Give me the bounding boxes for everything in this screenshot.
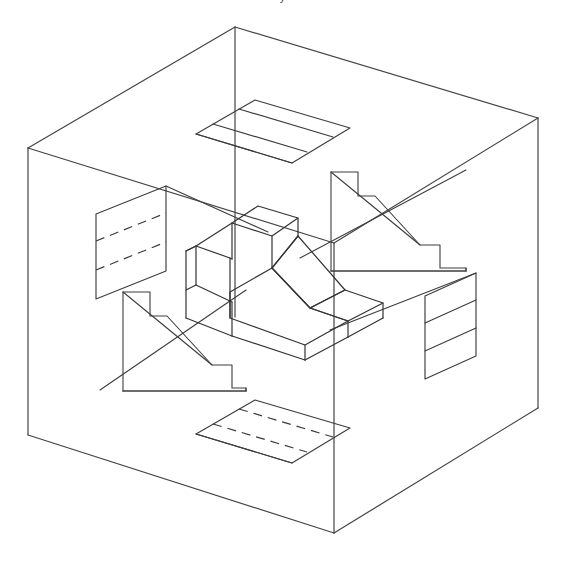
- projector-ray-lower-diagonal-a: [100, 290, 246, 390]
- left-plane-outline: [96, 186, 166, 299]
- top-plane-internal-line-1: [213, 124, 307, 152]
- object-base-top-face: [230, 268, 348, 345]
- profile-view-upper-right[interactable]: [331, 172, 466, 271]
- object-base-bottom-front-edge: [232, 336, 305, 360]
- projector-ray-lower-diagonal-b: [123, 292, 212, 365]
- projection-plane-left[interactable]: [96, 186, 166, 299]
- projection-plane-bottom[interactable]: [196, 400, 350, 463]
- object-notch-edge-diagonal: [272, 236, 298, 268]
- projection-plane-top[interactable]: [196, 100, 350, 163]
- left-plane-hidden-line-1: [96, 213, 166, 241]
- object-base-bottom-right-edge: [305, 337, 348, 360]
- object-left-wing-lower-edge: [196, 285, 232, 302]
- object-left-wing-top: [196, 223, 232, 259]
- profile-upper-right-outline: [331, 172, 466, 271]
- right-plane-internal-line-1: [425, 300, 476, 323]
- bottom-plane-outline: [196, 400, 350, 463]
- box-edge-bottom-front-right: [334, 408, 538, 533]
- projector-ray-right-to-object: [330, 273, 476, 330]
- projection-plane-right[interactable]: [425, 273, 476, 379]
- right-plane-internal-line-2: [425, 328, 476, 351]
- left-plane-hidden-line-2: [96, 242, 166, 270]
- projector-ray-group: [100, 134, 476, 463]
- object-right-flange-top: [310, 290, 383, 321]
- bottom-plane-hidden-line-2: [239, 409, 333, 437]
- box-edge-bottom-front-left: [28, 435, 334, 533]
- top-plane-internal-line-2: [239, 109, 333, 137]
- box-edge-top-rear-right: [235, 27, 538, 118]
- glass-box-projection-svg: [0, 0, 565, 565]
- bottom-plane-hidden-line-1: [213, 424, 307, 452]
- top-plane-outline: [196, 100, 350, 163]
- right-plane-outline: [425, 273, 476, 379]
- object-left-wing-front-face: [186, 246, 196, 290]
- technical-drawing-figure: y: [0, 0, 565, 565]
